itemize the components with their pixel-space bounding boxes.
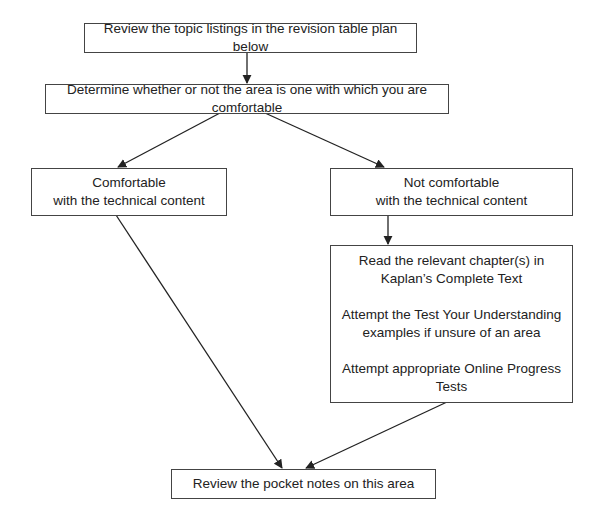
node-label-line1: Not comfortable <box>404 174 499 192</box>
node-label-line2: with the technical content <box>376 192 528 210</box>
step1-line2: Kaplan’s Complete Text <box>381 270 522 288</box>
node-not-comfortable: Not comfortable with the technical conte… <box>330 168 573 216</box>
step1-line1: Read the relevant chapter(s) in <box>359 252 544 270</box>
node-label: Review the topic listings in the revisio… <box>85 20 416 56</box>
step2-line1: Attempt the Test Your Understanding <box>342 306 562 324</box>
node-actions: Read the relevant chapter(s) in Kaplan’s… <box>330 245 573 403</box>
step2-line2: examples if unsure of an area <box>363 324 541 342</box>
node-comfortable: Comfortable with the technical content <box>31 168 227 216</box>
node-label-line1: Comfortable <box>92 174 166 192</box>
node-pocket-notes: Review the pocket notes on this area <box>171 469 436 499</box>
arrow-actions-to-pocket-notes <box>306 402 447 468</box>
arrow-determine-to-comfortable <box>118 113 220 167</box>
node-determine: Determine whether or not the area is one… <box>45 84 449 114</box>
node-review-topics: Review the topic listings in the revisio… <box>84 23 417 53</box>
node-label: Review the pocket notes on this area <box>193 475 414 493</box>
step3-line1: Attempt appropriate Online Progress <box>342 360 561 378</box>
arrow-comfortable-to-pocket-notes <box>116 215 282 468</box>
step3-line2: Tests <box>436 378 468 396</box>
arrow-determine-to-not-comfortable <box>265 113 384 167</box>
node-label: Determine whether or not the area is one… <box>46 81 448 117</box>
node-label-line2: with the technical content <box>53 192 205 210</box>
